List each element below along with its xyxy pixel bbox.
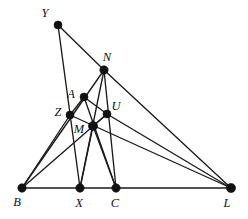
- vertex-label-a: A: [66, 87, 75, 101]
- vertex-point-u: [103, 110, 111, 118]
- segment-N-L: [104, 70, 231, 188]
- vertex-label-y: Y: [42, 6, 51, 20]
- vertex-point-x: [76, 184, 84, 192]
- segment-Z-B: [22, 115, 70, 188]
- points-layer: [18, 21, 236, 193]
- vertex-point-a: [80, 93, 88, 101]
- vertex-point-y: [54, 21, 62, 29]
- vertex-point-l: [226, 183, 235, 192]
- vertex-label-b: B: [13, 195, 21, 209]
- vertex-point-n: [100, 66, 108, 74]
- vertex-label-c: C: [111, 196, 120, 210]
- segments-layer: [22, 25, 231, 188]
- geometry-figure: YNAUZMBXCL: [0, 0, 248, 219]
- vertex-point-b: [18, 184, 26, 192]
- vertex-point-c: [112, 184, 120, 192]
- vertex-label-x: X: [74, 196, 84, 210]
- vertex-label-n: N: [102, 50, 112, 64]
- vertex-point-z: [66, 111, 74, 119]
- vertex-label-l: L: [223, 196, 231, 210]
- vertex-label-u: U: [111, 99, 121, 113]
- labels-layer: YNAUZMBXCL: [13, 6, 230, 210]
- vertex-label-z: Z: [55, 105, 63, 119]
- segment-U-L: [107, 114, 231, 188]
- segment-Y-N: [58, 25, 104, 70]
- vertex-point-m: [88, 121, 97, 130]
- vertex-label-m: M: [73, 122, 85, 136]
- geometry-diagram-canvas: YNAUZMBXCL: [0, 0, 248, 219]
